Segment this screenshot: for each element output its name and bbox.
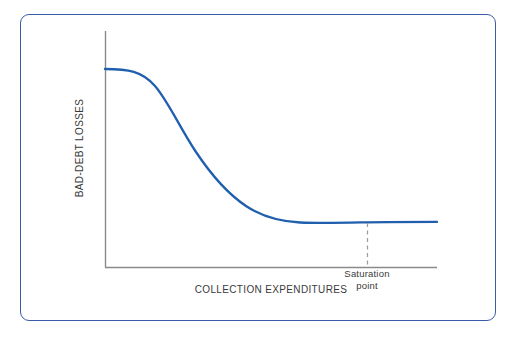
y-axis-title: BAD-DEBT LOSSES — [74, 78, 90, 218]
saturation-annotation-line-2: point — [317, 280, 417, 292]
bad-debt-losses-curve — [105, 69, 437, 223]
saturation-annotation-line-1: Saturation — [317, 268, 417, 280]
figure-root: BAD-DEBT LOSSES COLLECTION EXPENDITURES … — [0, 0, 520, 338]
saturation-point-annotation: Saturation point — [317, 268, 417, 292]
